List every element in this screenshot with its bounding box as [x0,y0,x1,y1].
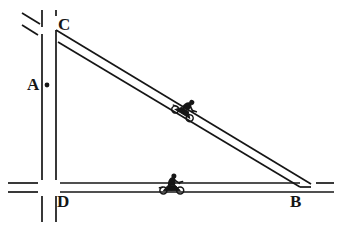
vertex-label-b: B [290,193,301,210]
vertex-label-c: C [58,16,70,33]
diagonal-road-lower-edge-northwest-stub [22,25,38,35]
motorcycle-diagonal-icon [170,93,201,123]
vertex-label-a: A [27,76,39,93]
vertex-label-d: D [57,193,69,210]
diagram-canvas: A C D B [0,0,341,228]
point-marker-A [45,83,50,88]
diagonal-road-lower-edge-main [58,42,300,187]
diagonal-road-upper-edge-northwest-stub [22,13,40,24]
